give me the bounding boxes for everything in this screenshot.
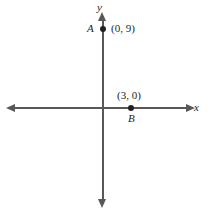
- point-b-dot: [128, 105, 134, 111]
- y-axis-up-arrow-icon: [98, 12, 106, 21]
- y-axis-label: y: [97, 2, 102, 13]
- point-b-letter-label: B: [128, 113, 135, 124]
- y-axis-line: [102, 16, 104, 204]
- x-axis-label: x: [194, 102, 199, 113]
- x-axis-left-arrow-icon: [6, 104, 15, 112]
- point-b-coordinates-label: (3, 0): [117, 90, 141, 101]
- point-a-letter-label: A: [87, 23, 94, 34]
- point-a-coordinates-label: (0, 9): [111, 23, 135, 34]
- x-axis-line: [10, 107, 190, 109]
- coordinate-plane-figure: x y A (0, 9) B (3, 0): [0, 0, 211, 215]
- y-axis-down-arrow-icon: [98, 199, 106, 208]
- point-a-dot: [100, 26, 106, 32]
